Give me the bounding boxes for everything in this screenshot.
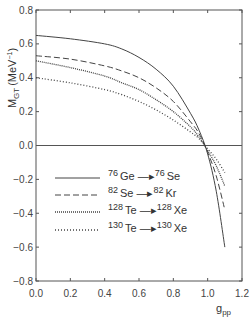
- legend-entry: 82Se—▸82Kr: [108, 185, 177, 199]
- y-tick-label: −0.2: [13, 174, 33, 185]
- y-tick-label: −0.6: [13, 242, 33, 253]
- y-tick-label: 0.0: [19, 140, 33, 151]
- x-tick-label: 0.6: [132, 288, 146, 299]
- legend-entry: 76Ge—▸76Se: [108, 168, 180, 182]
- x-tick-label: 0.4: [98, 288, 112, 299]
- legend-entry: 130Te—▸130Xe: [108, 220, 187, 234]
- y-tick-label: −0.4: [13, 208, 33, 219]
- x-axis-label: gpp: [216, 302, 232, 317]
- y-tick-label: 0.2: [19, 106, 33, 117]
- gt-matrix-chart: 0.80.60.40.20.0−0.2−0.4−0.6−0.8 0.00.20.…: [0, 0, 250, 319]
- y-tick-label: 0.6: [19, 38, 33, 49]
- x-tick-label: 0.2: [63, 288, 77, 299]
- y-tick-label: −0.8: [13, 276, 33, 287]
- x-axis-ticks: 0.00.20.40.60.81.01.2: [29, 10, 249, 299]
- x-tick-label: 0.0: [29, 288, 43, 299]
- legend: 76Ge—▸76Se82Se—▸82Kr128Te—▸128Xe130Te—▸1…: [55, 168, 187, 234]
- x-tick-label: 1.2: [235, 288, 249, 299]
- y-tick-label: 0.4: [19, 72, 33, 83]
- y-tick-label: 0.8: [19, 5, 33, 16]
- legend-entry: 128Te—▸128Xe: [108, 202, 187, 216]
- x-tick-label: 1.0: [201, 288, 215, 299]
- x-tick-label: 0.8: [166, 288, 180, 299]
